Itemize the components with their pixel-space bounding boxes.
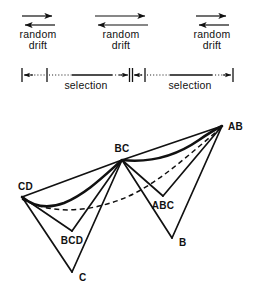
- node-label-CD: CD: [18, 181, 33, 192]
- dashed-trajectory-path: [22, 127, 222, 210]
- node-label-BCD: BCD: [61, 235, 84, 246]
- node-label-B: B: [179, 237, 187, 248]
- drift-label-line2: drift: [112, 39, 131, 51]
- node-label-AB: AB: [228, 121, 243, 132]
- edge-c-bc: [72, 160, 122, 272]
- node-label-ABC: ABC: [152, 200, 175, 211]
- drift-panel-left: random drift: [20, 16, 57, 51]
- drift-panel-center: random drift: [95, 16, 148, 51]
- selection-axis-group: selection selection: [22, 68, 233, 91]
- drift-label-line2: drift: [203, 39, 222, 51]
- edge-bc-b: [122, 160, 172, 238]
- drift-label-line2: drift: [29, 39, 48, 51]
- evolution-landscape-figure: random drift random drift random drift: [0, 0, 253, 290]
- landscape-tree-group: CD BC AB BCD C ABC B: [18, 121, 243, 283]
- node-label-BC: BC: [114, 143, 129, 154]
- selection-label-left: selection: [64, 79, 107, 91]
- drift-panels-group: random drift random drift random drift: [20, 16, 231, 51]
- edge-cd-bc: [22, 160, 122, 197]
- node-label-C: C: [79, 272, 87, 283]
- selection-label-right: selection: [168, 79, 211, 91]
- drift-panel-right: random drift: [194, 16, 231, 51]
